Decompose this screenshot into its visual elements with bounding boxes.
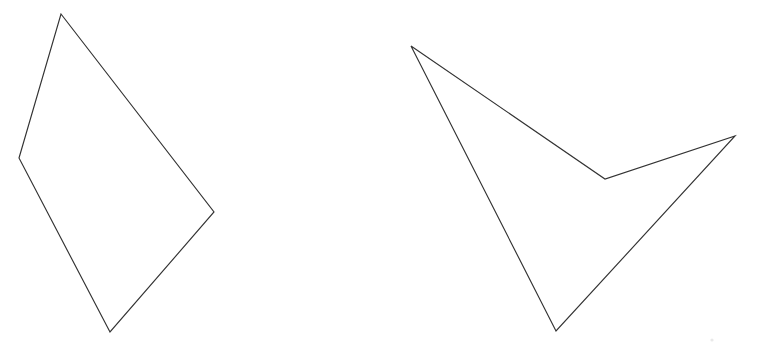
polygon-figure [0, 0, 757, 356]
faint-speck-artifact [710, 338, 713, 341]
figure-canvas [0, 0, 757, 356]
figure-background [0, 0, 757, 356]
